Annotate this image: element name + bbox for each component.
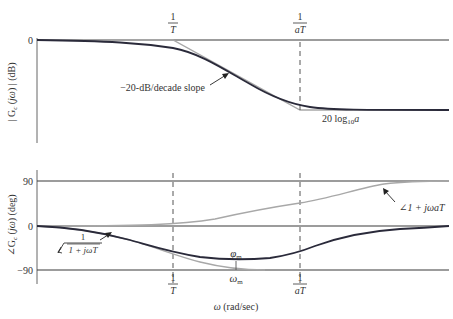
top-T-den: T bbox=[170, 24, 177, 35]
bottom-label-1-over-T: 1 T bbox=[168, 272, 178, 296]
lead-annotation: ∠1 + jωaT bbox=[399, 202, 446, 213]
lag-annotation-den: 1 + jωT bbox=[69, 245, 99, 255]
gain-annotation: 20 log10a bbox=[322, 113, 359, 126]
slope-arrowhead-icon bbox=[222, 73, 229, 79]
magnitude-asymptote bbox=[37, 40, 449, 110]
bottom-T-den: T bbox=[170, 285, 177, 296]
lag-annotation-num: 1 bbox=[81, 232, 86, 242]
phase-plot bbox=[37, 170, 449, 284]
magnitude-plot bbox=[37, 38, 449, 143]
bottom-aT-num: 1 bbox=[298, 272, 303, 283]
top-aT-den: aT bbox=[295, 24, 307, 35]
magnitude-y-label: | Gc (jω) | (dB) bbox=[6, 62, 19, 121]
top-label-1-over-T: 1 T bbox=[168, 11, 178, 35]
bottom-T-num: 1 bbox=[171, 272, 176, 283]
phase-tick-0: 0 bbox=[28, 221, 33, 232]
bottom-aT-den: aT bbox=[295, 285, 307, 296]
top-label-1-over-aT: 1 aT bbox=[293, 11, 307, 35]
omega-m-label: ωm bbox=[229, 272, 243, 286]
phase-tick-minus-90: −90 bbox=[17, 265, 33, 276]
mag-tick-0: 0 bbox=[28, 35, 33, 46]
phase-tick-90: 90 bbox=[23, 176, 33, 187]
phase-y-label: ∠Gc (jω) (deg) bbox=[6, 194, 19, 255]
lead-phase-curve bbox=[37, 181, 449, 226]
bode-diagram: 0 90 0 −90 | Gc (jω) | (dB) ∠Gc (jω) (de… bbox=[0, 0, 453, 319]
top-T-num: 1 bbox=[171, 11, 176, 22]
bottom-label-1-over-aT: 1 aT bbox=[293, 272, 307, 296]
magnitude-curve bbox=[37, 40, 449, 110]
x-axis-label: ω (rad/sec) bbox=[214, 301, 259, 313]
phi-m-label: φm bbox=[230, 247, 242, 261]
lag-radical-stroke bbox=[58, 243, 64, 253]
top-aT-num: 1 bbox=[298, 11, 303, 22]
slope-annotation: −20-dB/decade slope bbox=[120, 82, 205, 93]
